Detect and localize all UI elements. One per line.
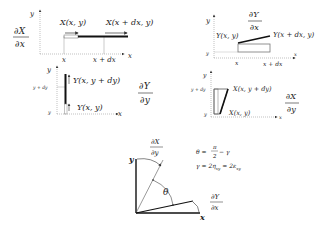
x-axis-label: x xyxy=(128,52,132,60)
strain-diagram: y x ∂X ∂x X(x, y) X(x + dx, y) x x + dx … xyxy=(0,0,332,232)
y-axis-label: y xyxy=(46,66,52,74)
shear-arc-right xyxy=(193,202,199,212)
tick-y: y xyxy=(203,111,207,118)
x-axis-label: x xyxy=(118,110,122,118)
rotated-x-line xyxy=(136,201,193,213)
fraction-num: ∂X xyxy=(286,92,296,101)
fraction-num: ∂X xyxy=(151,138,161,146)
label-X-xdx-y: X(x + dx, y) xyxy=(105,18,153,27)
x-axis-label: x xyxy=(199,212,205,222)
fraction-num: ∂Y xyxy=(249,10,259,19)
tick-x: x xyxy=(62,56,66,64)
original-element xyxy=(65,104,68,114)
label-X-x-y: X(x, y) xyxy=(228,109,251,117)
x-axis-label: x xyxy=(294,51,297,57)
panel-dX-dy: y x y + dy y X(x, y + dy) X(x, y) ∂X ∂y xyxy=(190,71,299,120)
original-element xyxy=(238,44,270,52)
tick-y-dy: y + dy xyxy=(32,85,48,90)
label-Y-x-y: Y(x, y) xyxy=(216,32,239,40)
panel-dX-dx: y x ∂X ∂x X(x, y) X(x + dx, y) x x + dx xyxy=(13,10,153,64)
shear-arc-top xyxy=(137,159,161,166)
deformed-element xyxy=(78,36,128,38)
label-X-x-y: X(x, y) xyxy=(59,18,86,27)
fraction-den: ∂x xyxy=(250,23,259,32)
fraction-num: ∂Y xyxy=(139,81,151,91)
deformed-element xyxy=(238,36,270,43)
fraction-num: ∂X xyxy=(14,26,26,36)
eq1-rhs: − γ xyxy=(219,148,230,156)
fraction-den: ∂y xyxy=(151,149,160,157)
label-X-x-ydy: X(x, y + dy) xyxy=(232,85,272,93)
eq1-num: π xyxy=(212,144,217,150)
eq2: γ = 2ηxy = 2εxy xyxy=(196,162,242,171)
label-Y-xdx-y: Y(x + dx, y) xyxy=(273,31,314,39)
fraction-den: ∂x xyxy=(211,204,219,212)
panel-shear: y x θ ∂X ∂y ∂Y ∂x θ = π 2 − γ γ = 2ηxy =… xyxy=(128,138,242,222)
y-axis-label: y xyxy=(205,17,211,25)
deformed-element xyxy=(220,89,228,114)
label-Y-x-y: Y(x, y) xyxy=(77,103,103,112)
fraction-den: ∂y xyxy=(287,105,296,114)
tick-x: x xyxy=(235,59,239,66)
tick-x-dx: x + dx xyxy=(93,56,116,64)
rotated-y-line xyxy=(136,160,163,213)
panel-dY-dy: y x Y(x, y + dy) Y(x, y) y + dy y ∂Y ∂y xyxy=(32,66,153,118)
tick-y: y xyxy=(47,109,51,116)
panel-dY-dx: y x ∂Y ∂x Y(x, y) Y(x + dx, y) y x x + d… xyxy=(205,10,314,67)
eq1-den: 2 xyxy=(212,153,217,159)
y-axis-label: y xyxy=(128,154,135,164)
original-element xyxy=(214,89,218,114)
fraction-den: ∂x xyxy=(15,39,25,49)
tick-y: y xyxy=(205,50,209,57)
y-axis-label: y xyxy=(202,71,207,79)
tick-y-dy: y + dy xyxy=(190,87,206,92)
label-Y-x-ydy: Y(x, y + dy) xyxy=(73,76,120,85)
tick-x-dx: x + dx xyxy=(263,60,283,67)
original-element xyxy=(64,35,78,38)
deformed-element xyxy=(65,74,67,104)
theta-label: θ xyxy=(163,187,169,197)
y-axis-label: y xyxy=(29,10,35,18)
fraction-den: ∂y xyxy=(140,95,151,105)
fraction-num: ∂Y xyxy=(211,193,221,201)
x-axis-label: x xyxy=(279,114,282,120)
eq1-lhs: θ = xyxy=(196,148,207,155)
